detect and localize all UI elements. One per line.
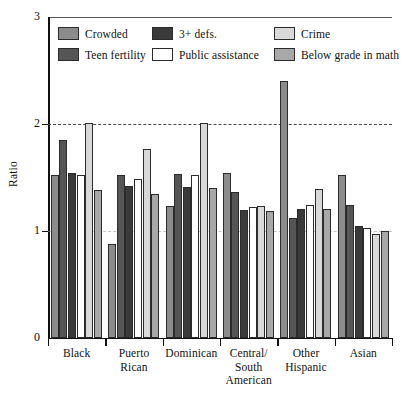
bar[interactable]	[240, 210, 248, 338]
x-axis-group-separator	[220, 338, 221, 346]
bar[interactable]	[59, 140, 67, 338]
x-axis-group-separator	[392, 338, 393, 346]
bar[interactable]	[257, 206, 265, 338]
bar[interactable]	[117, 175, 125, 338]
bar[interactable]	[231, 192, 239, 338]
bar-group	[223, 17, 275, 338]
x-axis-group-separator	[48, 338, 49, 346]
x-axis-category-label-line: Other	[277, 347, 334, 361]
bar[interactable]	[68, 173, 76, 338]
x-axis-category-label-line: American	[220, 374, 277, 388]
bar[interactable]	[381, 231, 389, 338]
x-axis-category-label-line: South	[220, 361, 277, 375]
bar[interactable]	[249, 207, 257, 338]
bar[interactable]	[108, 244, 116, 338]
bar-group	[166, 17, 218, 338]
bars-layer	[48, 17, 392, 338]
y-tick-label: 2	[12, 116, 40, 131]
x-axis-category-label-line: Central/	[220, 347, 277, 361]
x-axis-category-label-line: Black	[48, 347, 105, 361]
x-axis-category-label-line: Rican	[105, 361, 162, 375]
bar[interactable]	[289, 218, 297, 338]
x-axis-category-label-line: Hispanic	[277, 361, 334, 375]
x-axis-group-separator	[163, 338, 164, 346]
bar[interactable]	[77, 175, 85, 338]
bar-group	[338, 17, 390, 338]
bar[interactable]	[338, 175, 346, 338]
bar[interactable]	[166, 206, 174, 338]
x-axis-category-label: OtherHispanic	[277, 347, 334, 374]
bar-group	[108, 17, 160, 338]
bar[interactable]	[143, 149, 151, 338]
bar[interactable]	[266, 211, 274, 338]
bar[interactable]	[306, 205, 314, 338]
bar[interactable]	[191, 175, 199, 338]
bar[interactable]	[315, 189, 323, 338]
x-axis-category-label: Black	[48, 347, 105, 361]
x-axis-group-separator	[335, 338, 336, 346]
y-tick-label: 0	[12, 330, 40, 345]
bar[interactable]	[323, 209, 331, 338]
bar[interactable]	[223, 173, 231, 338]
x-axis-category-label: Asian	[335, 347, 392, 361]
bar[interactable]	[174, 174, 182, 338]
bar[interactable]	[346, 205, 354, 338]
bar[interactable]	[280, 81, 288, 338]
y-axis-title: Ratio	[7, 144, 19, 204]
bar[interactable]	[200, 123, 208, 338]
bar[interactable]	[51, 175, 59, 338]
bar[interactable]	[355, 226, 363, 338]
bar[interactable]	[125, 186, 133, 338]
bar[interactable]	[134, 179, 142, 338]
bar[interactable]	[151, 194, 159, 338]
bar-chart-figure: Ratio 0123 Crowded3+ defs.CrimeTeen fert…	[0, 0, 405, 399]
bar[interactable]	[183, 187, 191, 338]
bar-group	[51, 17, 103, 338]
x-axis-category-label-line: Asian	[335, 347, 392, 361]
x-axis-group-separator	[105, 338, 106, 346]
y-tick-label: 1	[12, 223, 40, 238]
bar-group	[280, 17, 332, 338]
x-axis-category-label: Dominican	[163, 347, 220, 361]
y-tick-label: 3	[12, 9, 40, 24]
x-axis-category-label: PuertoRican	[105, 347, 162, 374]
x-axis-category-label-line: Dominican	[163, 347, 220, 361]
x-axis-category-label: Central/SouthAmerican	[220, 347, 277, 388]
bar[interactable]	[85, 123, 93, 338]
bar[interactable]	[297, 209, 305, 338]
bar[interactable]	[372, 234, 380, 338]
x-axis-group-separator	[277, 338, 278, 346]
bar[interactable]	[209, 188, 217, 338]
bar[interactable]	[363, 228, 371, 338]
bar[interactable]	[94, 190, 102, 338]
x-axis-category-label-line: Puerto	[105, 347, 162, 361]
